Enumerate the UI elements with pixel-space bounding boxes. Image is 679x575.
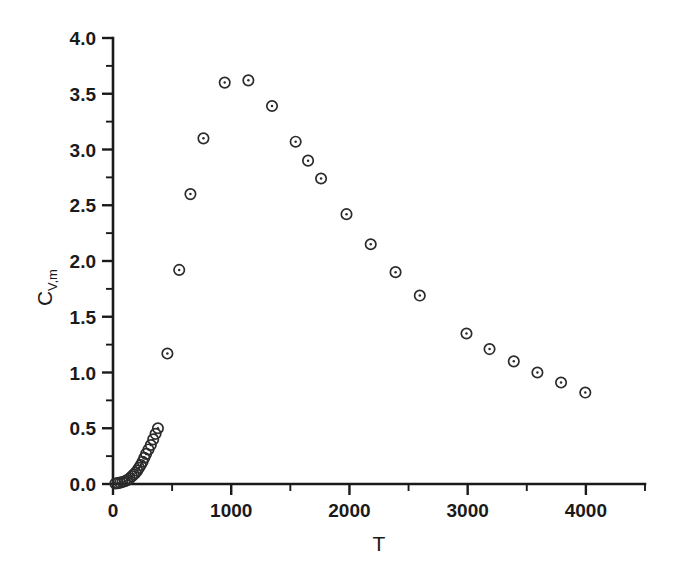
marker-center-dot <box>536 371 539 374</box>
y-tick-label: 3.5 <box>70 84 97 105</box>
y-tick-label: 0.0 <box>70 474 96 495</box>
marker-center-dot <box>584 391 587 394</box>
y-axis-tick-labels: 0.00.51.01.52.02.53.03.54.0 <box>70 28 97 495</box>
marker-center-dot <box>271 105 274 108</box>
plot-background <box>0 0 679 575</box>
marker-center-dot <box>369 243 372 246</box>
marker-center-dot <box>488 348 491 351</box>
x-tick-label: 3000 <box>447 500 489 521</box>
marker-center-dot <box>166 352 169 355</box>
marker-center-dot <box>513 360 516 363</box>
x-tick-label: 2000 <box>328 500 370 521</box>
marker-center-dot <box>294 140 297 143</box>
x-tick-label: 1000 <box>210 500 252 521</box>
figure-container: 0.00.51.01.52.02.53.03.54.0 010002000300… <box>0 0 679 575</box>
scatter-plot: 0.00.51.01.52.02.53.03.54.0 010002000300… <box>0 0 679 575</box>
marker-center-dot <box>157 427 160 430</box>
marker-center-dot <box>345 213 348 216</box>
y-tick-label: 2.5 <box>70 195 97 216</box>
x-axis-label-text: T <box>373 532 386 555</box>
y-tick-label: 1.0 <box>70 363 96 384</box>
marker-center-dot <box>247 79 250 82</box>
y-tick-label: 3.0 <box>70 140 96 161</box>
y-axis-label-text: C <box>33 291 56 306</box>
marker-center-dot <box>394 271 397 274</box>
marker-center-dot <box>307 159 310 162</box>
marker-center-dot <box>465 332 468 335</box>
y-tick-label: 4.0 <box>70 28 96 49</box>
y-tick-label: 1.5 <box>70 307 97 328</box>
y-axis-label-subscript: V,m <box>45 269 60 291</box>
marker-center-dot <box>320 177 323 180</box>
y-tick-label: 2.0 <box>70 251 96 272</box>
marker-center-dot <box>189 193 192 196</box>
x-tick-label: 4000 <box>565 500 607 521</box>
marker-center-dot <box>178 269 181 272</box>
marker-center-dot <box>419 294 422 297</box>
y-tick-label: 0.5 <box>70 418 97 439</box>
x-tick-label: 0 <box>108 500 119 521</box>
marker-center-dot <box>202 137 205 140</box>
marker-center-dot <box>560 381 563 384</box>
marker-center-dot <box>223 81 226 84</box>
